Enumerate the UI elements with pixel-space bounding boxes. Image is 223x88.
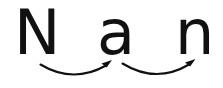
blend-arrow-2-curve [123,64,190,75]
blend-arrow-1-curve [41,65,107,75]
blend-arrow-1 [41,60,113,75]
phonics-blending-diagram: N a n [0,0,223,88]
blend-arrow-layer [0,0,223,88]
blend-arrow-2 [123,59,196,74]
